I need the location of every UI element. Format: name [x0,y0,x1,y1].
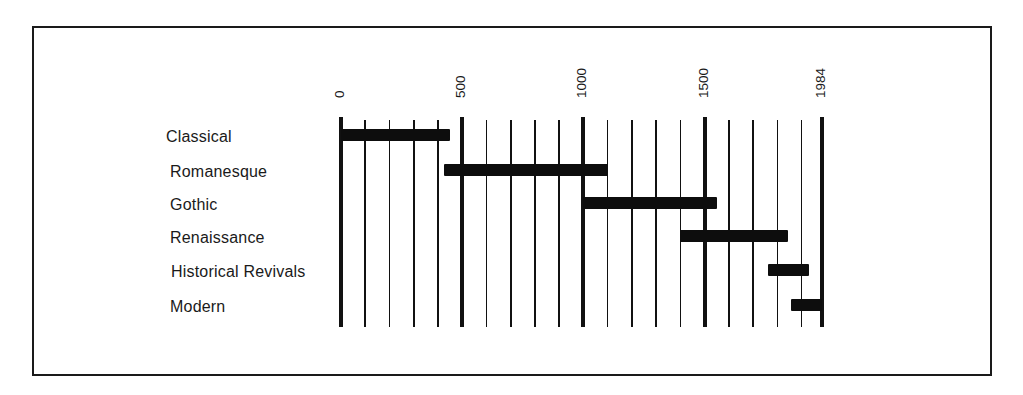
category-label: Classical [166,128,232,146]
minor-gridline [655,120,657,327]
minor-gridline [728,120,730,327]
category-label: Romanesque [170,163,267,181]
major-gridline [703,117,707,327]
minor-gridline [558,120,560,327]
category-label: Gothic [170,196,217,214]
timeline-bar [680,230,788,242]
minor-gridline [389,120,391,327]
category-label: Modern [170,298,225,316]
timeline-bar [341,129,450,141]
x-tick-label: 1500 [697,68,711,98]
x-tick-label: 1000 [575,68,589,98]
minor-gridline [752,120,754,327]
major-gridline [820,117,824,327]
timeline-bar [444,164,608,176]
timeline-bar [791,299,822,311]
category-label: Renaissance [170,229,265,247]
minor-gridline [680,120,682,327]
minor-gridline [413,120,415,327]
minor-gridline [631,120,633,327]
minor-gridline [510,120,512,327]
minor-gridline [364,120,366,327]
timeline-chart: 0500100015001984ClassicalRomanesqueGothi… [0,0,1023,395]
major-gridline [581,117,585,327]
major-gridline [460,117,464,327]
x-tick-label: 0 [333,90,347,98]
category-label: Historical Revivals [171,263,306,281]
minor-gridline [607,120,609,327]
x-tick-label: 500 [454,75,468,98]
minor-gridline [534,120,536,327]
minor-gridline [777,120,779,327]
x-tick-label: 1984 [814,68,828,98]
timeline-bar [768,264,809,276]
minor-gridline [486,120,488,327]
minor-gridline [437,120,439,327]
timeline-bar [583,197,716,209]
minor-gridline [801,120,803,327]
major-gridline [339,117,343,327]
